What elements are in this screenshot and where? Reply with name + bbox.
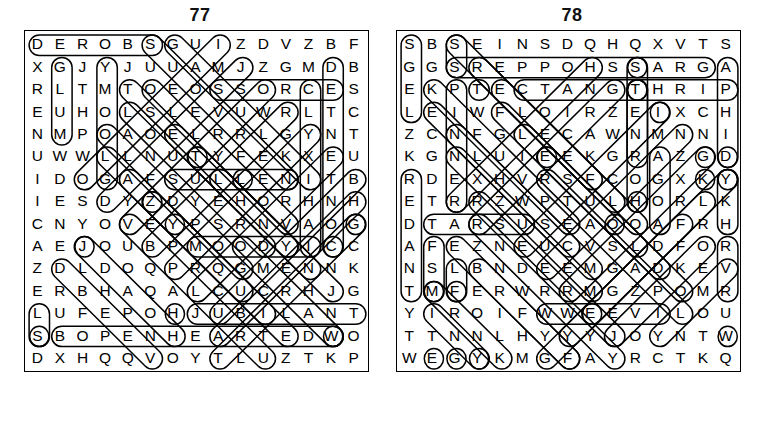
grid-cell: O bbox=[624, 167, 647, 189]
grid-cell: D bbox=[162, 190, 185, 212]
grid-cell: B bbox=[320, 33, 343, 55]
grid-cell: E bbox=[556, 257, 579, 279]
grid-cell: Z bbox=[275, 346, 298, 368]
grid-cell: Z bbox=[466, 235, 489, 257]
grid-cell: M bbox=[207, 55, 230, 77]
grid-cell: O bbox=[647, 190, 670, 212]
grid-cell: C bbox=[252, 279, 275, 301]
grid-cell: U bbox=[488, 145, 511, 167]
grid-cell: K bbox=[692, 167, 715, 189]
grid-cell: S bbox=[71, 190, 94, 212]
grid-cell: E bbox=[320, 145, 343, 167]
grid-cell: R bbox=[443, 190, 466, 212]
grid-cell: G bbox=[601, 257, 624, 279]
grid-cell: N bbox=[139, 324, 162, 346]
grid-cell: T bbox=[320, 100, 343, 122]
grid-cell: O bbox=[207, 235, 230, 257]
grid-cell: Z bbox=[488, 190, 511, 212]
grid-cell: N bbox=[488, 257, 511, 279]
grid-cell: J bbox=[601, 324, 624, 346]
grid-cell: D bbox=[398, 212, 421, 234]
grid-cell: N bbox=[320, 302, 343, 324]
grid-cell: T bbox=[116, 78, 139, 100]
grid-cell: Y bbox=[184, 190, 207, 212]
grid-cell: E bbox=[466, 33, 489, 55]
grid-cell: Y bbox=[466, 346, 489, 368]
grid-cell: S bbox=[601, 235, 624, 257]
grid-cell: K bbox=[669, 257, 692, 279]
grid-cell: I bbox=[443, 100, 466, 122]
grid-cell: R bbox=[207, 123, 230, 145]
grid-cell: E bbox=[556, 145, 579, 167]
grid-cell: D bbox=[556, 33, 579, 55]
grid-cell: E bbox=[466, 279, 489, 301]
grid-cell: L bbox=[184, 123, 207, 145]
grid-cell: O bbox=[94, 235, 117, 257]
grid-cell: N bbox=[624, 123, 647, 145]
grid-cell: G bbox=[443, 346, 466, 368]
grid-cell: Y bbox=[116, 190, 139, 212]
grid-cell: S bbox=[229, 78, 252, 100]
grid-cell: U bbox=[49, 302, 72, 324]
grid-cell: R bbox=[714, 279, 737, 301]
grid-cell: Y bbox=[207, 145, 230, 167]
grid-cell: D bbox=[421, 167, 444, 189]
grid-cell: M bbox=[252, 257, 275, 279]
grid-cell: O bbox=[94, 212, 117, 234]
grid-cell: T bbox=[342, 302, 365, 324]
grid-cell: D bbox=[26, 33, 49, 55]
grid-cell: X bbox=[647, 33, 670, 55]
grid-cell: W bbox=[398, 346, 421, 368]
grid-cell: O bbox=[624, 212, 647, 234]
letter-grid-78: SBSEINSDQHQXVTSGGSREPPOHSSARGAEKPTECTANG… bbox=[398, 33, 740, 369]
grid-cell: Y bbox=[534, 324, 557, 346]
grid-cell: B bbox=[229, 302, 252, 324]
grid-cell: A bbox=[556, 78, 579, 100]
grid-cell: V bbox=[511, 167, 534, 189]
puzzle-number-77: 77 bbox=[24, 0, 376, 30]
grid-cell: R bbox=[556, 279, 579, 301]
grid-cell: P bbox=[647, 279, 670, 301]
puzzle-grid-frame-77: DEROBSGUIZDVZBFXGJYJUUAMJZGMDBRLTMTOEOSS… bbox=[24, 30, 369, 372]
grid-cell: Z bbox=[624, 279, 647, 301]
grid-cell: E bbox=[398, 190, 421, 212]
grid-cell: C bbox=[556, 235, 579, 257]
grid-cell: N bbox=[511, 33, 534, 55]
grid-cell: T bbox=[342, 123, 365, 145]
grid-cell: G bbox=[534, 346, 557, 368]
grid-cell: G bbox=[342, 279, 365, 301]
grid-cell: W bbox=[511, 279, 534, 301]
grid-cell: T bbox=[556, 190, 579, 212]
grid-cell: Y bbox=[297, 123, 320, 145]
grid-cell: O bbox=[162, 346, 185, 368]
grid-cell: F bbox=[71, 302, 94, 324]
grid-cell: N bbox=[466, 324, 489, 346]
grid-cell: Q bbox=[624, 33, 647, 55]
grid-cell: L bbox=[669, 302, 692, 324]
grid-cell: R bbox=[669, 78, 692, 100]
grid-cell: S bbox=[443, 33, 466, 55]
grid-cell: G bbox=[275, 123, 298, 145]
grid-cell: Y bbox=[275, 235, 298, 257]
grid-cell: G bbox=[421, 55, 444, 77]
grid-cell: E bbox=[49, 235, 72, 257]
grid-cell: Z bbox=[139, 190, 162, 212]
grid-cell: T bbox=[71, 78, 94, 100]
grid-cell: J bbox=[229, 55, 252, 77]
grid-cell: R bbox=[534, 167, 557, 189]
grid-cell: D bbox=[49, 167, 72, 189]
grid-cell: A bbox=[116, 123, 139, 145]
grid-cell: M bbox=[579, 279, 602, 301]
grid-cell: X bbox=[669, 100, 692, 122]
grid-cell: G bbox=[49, 55, 72, 77]
grid-cell: E bbox=[275, 324, 298, 346]
grid-cell: E bbox=[320, 78, 343, 100]
grid-cell: T bbox=[421, 212, 444, 234]
grid-cell: C bbox=[647, 346, 670, 368]
grid-cell: O bbox=[94, 100, 117, 122]
grid-cell: F bbox=[511, 302, 534, 324]
grid-cell: I bbox=[26, 190, 49, 212]
grid-cell: N bbox=[139, 145, 162, 167]
grid-cell: K bbox=[421, 78, 444, 100]
grid-cell: G bbox=[275, 55, 298, 77]
